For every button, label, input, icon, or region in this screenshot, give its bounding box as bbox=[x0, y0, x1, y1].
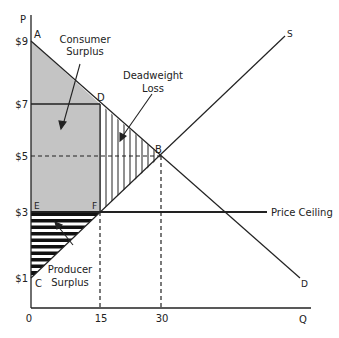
producer-surplus-label-1: Producer bbox=[48, 264, 93, 275]
consumer-surplus-label-2: Surplus bbox=[66, 46, 103, 57]
x-tick-15: 15 bbox=[95, 313, 108, 324]
axis-label-p: P bbox=[20, 14, 26, 25]
x-tick-30: 30 bbox=[156, 313, 169, 324]
y-tick-5: $5 bbox=[15, 151, 28, 162]
price-ceiling-label: Price Ceiling bbox=[271, 207, 333, 218]
y-tick-7: $7 bbox=[15, 99, 28, 110]
point-b: B bbox=[155, 144, 162, 155]
point-f: F bbox=[92, 201, 97, 211]
x-tick-0: 0 bbox=[26, 313, 32, 324]
price-ceiling-chart: P Q $9 $7 $5 $3 $1 0 15 30 A D B E F C S… bbox=[0, 0, 339, 338]
y-tick-9: $9 bbox=[15, 36, 28, 47]
point-e: E bbox=[34, 201, 40, 211]
point-c: C bbox=[35, 278, 42, 289]
axis-label-q: Q bbox=[299, 314, 307, 325]
curve-label-d: D bbox=[301, 279, 308, 289]
deadweight-loss-label-2: Loss bbox=[142, 83, 164, 94]
point-d: D bbox=[97, 92, 105, 103]
producer-surplus-label-2: Surplus bbox=[51, 277, 88, 288]
curve-label-s: S bbox=[287, 29, 293, 39]
y-tick-1: $1 bbox=[15, 273, 28, 284]
point-a: A bbox=[34, 29, 41, 40]
consumer-surplus-label-1: Consumer bbox=[60, 34, 112, 45]
y-tick-3: $3 bbox=[15, 207, 28, 218]
deadweight-loss-label-1: Deadweight bbox=[123, 70, 183, 81]
consumer-surplus-region bbox=[31, 41, 100, 212]
